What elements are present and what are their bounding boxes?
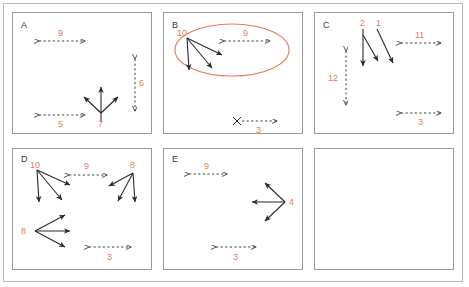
label-12-c: 12 — [328, 74, 338, 83]
arrow-cluster-2 — [363, 29, 378, 66]
label-10-d: 10 — [30, 161, 40, 170]
label-8-d-left: 8 — [21, 227, 26, 236]
label-11-c: 11 — [415, 31, 424, 40]
figure-canvas: A 9 6 5 7 B — [0, 0, 469, 287]
label-9-e: 9 — [204, 162, 209, 171]
arrow-cluster-10 — [37, 170, 70, 202]
arrow-cluster-8-left — [35, 215, 70, 247]
label-3-b: 3 — [256, 126, 261, 135]
dashed-arrow-with-x-3 — [233, 117, 277, 125]
label-7-a: 7 — [98, 120, 103, 129]
highlight-ellipse — [175, 24, 289, 76]
label-5-a: 5 — [58, 120, 63, 129]
label-10-b: 10 — [177, 29, 187, 38]
arrow-cluster-8-top — [109, 173, 135, 202]
label-2-c: 2 — [360, 19, 365, 28]
arrow-cluster-4 — [252, 183, 285, 221]
panel-c: C 2 1 11 12 — [314, 12, 454, 134]
label-3-c: 3 — [418, 118, 423, 127]
panel-f-empty — [314, 148, 454, 270]
label-4-e: 4 — [289, 198, 294, 207]
arrow-cluster-7 — [84, 87, 118, 121]
panel-a: A 9 6 5 7 — [12, 12, 152, 134]
label-6-a: 6 — [139, 79, 144, 88]
panel-b: B 10 9 3 — [163, 12, 303, 134]
label-3-e: 3 — [233, 253, 238, 262]
panel-d: D — [12, 148, 152, 270]
label-9-d: 9 — [84, 162, 89, 171]
panel-a-graphics — [13, 13, 153, 135]
label-8-d-top: 8 — [130, 161, 135, 170]
arrow-cluster-1 — [377, 29, 393, 63]
panel-e: E 9 4 3 — [163, 148, 303, 270]
label-3-d: 3 — [107, 253, 112, 262]
label-1-c: 1 — [376, 19, 381, 28]
label-9-a: 9 — [58, 29, 63, 38]
label-9-b: 9 — [243, 29, 248, 38]
arrow-cluster-10 — [187, 38, 222, 70]
